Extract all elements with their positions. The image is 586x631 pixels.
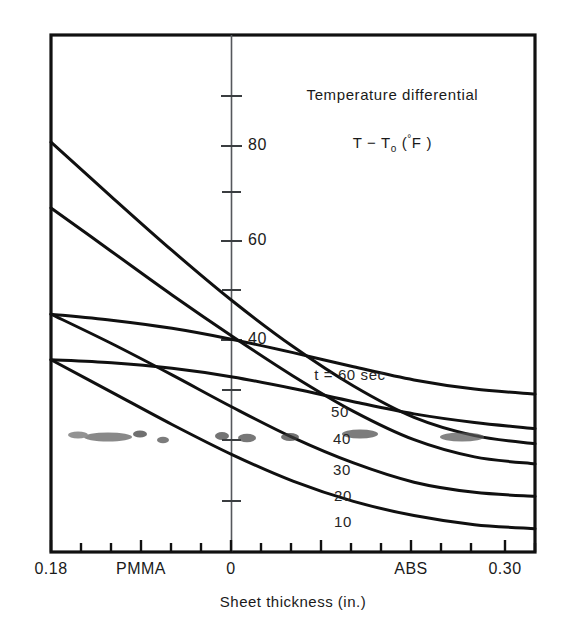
y-tick-label-40: 40 xyxy=(248,330,267,348)
chart-annotation-title: Temperature differential T − To (°F ) xyxy=(268,62,498,182)
x-axis-ticks xyxy=(51,540,535,552)
curve-30 xyxy=(51,208,535,464)
curve-group xyxy=(51,142,535,529)
y-tick-label-80: 80 xyxy=(248,136,267,154)
curve-10 xyxy=(51,360,535,529)
x-axis-title: Sheet thickness (in.) xyxy=(153,593,433,610)
curve-label-10: 10 xyxy=(321,513,365,530)
annotation-line-1: Temperature differential xyxy=(307,86,479,103)
x-tick-label-pmma: PMMA xyxy=(111,560,171,578)
curve-label-30: 30 xyxy=(320,461,364,478)
curve-t-60-sec xyxy=(51,314,535,394)
x-tick-label-0-18: 0.18 xyxy=(21,560,81,578)
curve-label-50: 50 xyxy=(318,403,362,420)
x-tick-label-abs: ABS xyxy=(381,560,441,578)
curve-label-60sec: t = 60 sec xyxy=(300,366,400,383)
annotation-line-2: T − To (°F ) xyxy=(353,134,432,151)
curve-20 xyxy=(51,314,535,496)
x-tick-label-0: 0 xyxy=(201,560,261,578)
figure-root: Temperature differential T − To (°F ) 80… xyxy=(0,0,586,631)
annotation-t-minus-t: T − T xyxy=(353,134,391,151)
annotation-open-paren: ( xyxy=(397,134,407,151)
annotation-unit-f: F ) xyxy=(412,134,432,151)
x-tick-label-0-30: 0.30 xyxy=(475,560,535,578)
curve-label-20: 20 xyxy=(321,487,365,504)
curve-50 xyxy=(51,360,535,429)
curve-label-40: 40 xyxy=(320,430,364,447)
y-tick-label-60: 60 xyxy=(248,231,267,249)
